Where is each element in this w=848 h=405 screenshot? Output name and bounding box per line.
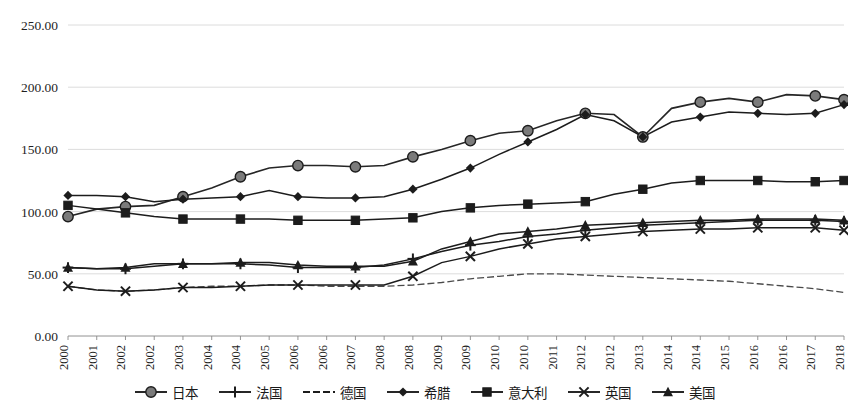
x-axis-tick-label: 2015 [718,345,732,370]
x-axis-tick-label: 2000 [57,345,71,370]
data-point-marker [121,209,129,217]
data-point-marker [840,176,848,184]
data-point-marker [581,197,589,205]
data-point-marker [523,137,532,146]
legend-marker-square-icon [470,384,504,400]
data-point-marker [294,216,302,224]
y-axis-tick-label: 100.00 [21,205,58,220]
data-point-marker [696,112,705,121]
x-axis-tick-label: 2010 [488,345,502,370]
x-axis-tick-label: 2012 [603,345,617,370]
data-point-marker [408,185,417,194]
legend-marker-x-icon [567,384,601,400]
data-point-marker [811,109,820,118]
legend-marker-plus-icon [218,384,252,400]
data-point-marker [398,387,407,396]
x-axis-tick-label: 2001 [86,345,100,370]
data-point-marker [235,172,245,182]
x-axis-tick-label: 2006 [316,345,330,370]
x-axis-tick-label: 2009 [459,345,473,370]
data-point-marker [639,185,647,193]
data-point-marker [63,191,72,200]
data-point-marker [409,214,417,222]
data-point-marker [145,386,155,396]
x-axis-tick-label: 2008 [373,345,387,370]
x-axis-tick-label: 2014 [689,344,703,370]
legend-item-希腊[interactable]: 希腊 [386,382,450,402]
legend-item-label: 美国 [689,382,715,402]
x-axis-tick-label: 2006 [287,345,301,370]
legend-item-日本[interactable]: 日本 [134,382,198,402]
x-axis-tick-label: 2016 [776,345,790,370]
x-axis-tick-label: 2005 [258,345,272,370]
data-point-marker [293,160,303,170]
legend-item-德国[interactable]: 德国 [302,382,366,402]
data-point-marker [236,215,244,223]
data-point-marker [524,200,532,208]
legend-item-美国[interactable]: 美国 [651,382,715,402]
legend-item-label: 日本 [172,382,198,402]
data-point-marker [64,201,72,209]
data-point-marker [351,216,359,224]
x-axis-tick-label: 2007 [344,345,358,370]
data-point-marker [754,176,762,184]
y-axis-tick-label: 200.00 [21,80,58,95]
legend-item-label: 意大利 [508,382,547,402]
legend-item-label: 法国 [256,382,282,402]
data-point-marker [121,192,130,201]
x-axis-tick-label: 2004 [201,344,215,370]
x-axis-tick-label: 2004 [229,344,243,370]
chart-legend: 日本法国德国希腊意大利英国美国 [0,378,848,405]
data-point-marker [236,192,245,201]
y-axis-tick-label: 150.00 [21,142,58,157]
data-point-marker [351,193,360,202]
data-point-marker [293,192,302,201]
line-chart: 0.0050.00100.00150.00200.00250.002000200… [0,0,848,405]
data-point-marker [810,91,820,101]
legend-item-label: 德国 [340,382,366,402]
data-point-marker [466,204,474,212]
x-axis-tick-label: 2008 [402,345,416,370]
legend-marker-none-icon [302,384,336,400]
y-axis-tick-label: 0.00 [34,329,58,344]
x-axis-tick-label: 2009 [431,345,445,370]
data-point-marker [466,163,475,172]
legend-item-label: 希腊 [424,382,450,402]
chart-canvas: 0.0050.00100.00150.00200.00250.002000200… [0,0,848,405]
x-axis-tick-label: 2010 [517,345,531,370]
x-axis-tick-label: 2013 [632,345,646,370]
x-axis-tick-label: 2011 [546,345,560,370]
data-point-marker [482,387,490,395]
legend-marker-diamond-icon [386,384,420,400]
data-point-marker [179,215,187,223]
data-point-marker [229,386,240,397]
x-axis-tick-label: 2002 [143,345,157,370]
data-point-marker [408,152,418,162]
x-axis-tick-label: 2018 [833,345,847,370]
y-axis-tick-label: 50.00 [28,267,59,282]
data-point-marker [63,211,73,221]
x-axis-tick-label: 2003 [172,345,186,370]
x-axis-tick-label: 2014 [661,344,675,370]
legend-item-意大利[interactable]: 意大利 [470,382,547,402]
data-point-marker [811,178,819,186]
data-point-marker [753,97,763,107]
legend-item-法国[interactable]: 法国 [218,382,282,402]
series-line-3 [68,105,844,202]
data-point-marker [465,135,475,145]
x-axis-tick-label: 2016 [747,345,761,370]
y-axis-tick-label: 250.00 [21,18,58,33]
data-point-marker [696,176,704,184]
x-axis-tick-label: 2017 [804,345,818,370]
x-axis-tick-label: 2012 [574,345,588,370]
data-point-marker [695,97,705,107]
data-point-marker [350,162,360,172]
legend-item-label: 英国 [605,382,631,402]
legend-marker-triangle-icon [651,384,685,400]
data-point-marker [523,126,533,136]
data-point-marker [408,272,417,281]
data-point-marker [753,109,762,118]
x-axis-tick-label: 2002 [114,345,128,370]
legend-item-英国[interactable]: 英国 [567,382,631,402]
legend-marker-circle-icon [134,384,168,400]
